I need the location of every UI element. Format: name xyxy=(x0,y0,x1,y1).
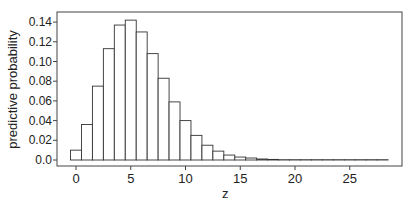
x-axis: 0510152025 xyxy=(72,166,357,186)
histogram-bar xyxy=(103,49,114,160)
x-tick-label: 20 xyxy=(288,171,302,186)
histogram-bar xyxy=(180,121,191,160)
x-tick-label: 15 xyxy=(233,171,247,186)
histogram-bar xyxy=(235,157,246,160)
histogram-bar xyxy=(224,155,235,160)
y-tick-label: 0.02 xyxy=(29,133,53,147)
y-axis-title-text: predictive probability xyxy=(5,30,20,149)
y-tick-label: 0.10 xyxy=(29,55,53,69)
histogram-bar xyxy=(169,102,180,160)
histogram-bar xyxy=(268,159,279,160)
y-axis: 0.00.020.040.060.080.100.120.14 xyxy=(29,15,57,167)
x-tick-label: 0 xyxy=(72,171,79,186)
x-tick-label: 5 xyxy=(127,171,134,186)
histogram-bar xyxy=(125,20,136,160)
histogram-bar xyxy=(191,135,202,160)
y-tick-label: 0.08 xyxy=(29,74,53,88)
histogram-bar xyxy=(246,158,257,160)
histogram-bar xyxy=(81,125,92,160)
histogram-bar xyxy=(213,151,224,160)
x-tick-label: 10 xyxy=(178,171,192,186)
histogram-chart: 0.00.020.040.060.080.100.120.14 05101520… xyxy=(0,0,416,211)
histogram-bar xyxy=(114,25,125,160)
histogram-bar xyxy=(136,32,147,160)
y-axis-title: predictive probability xyxy=(2,14,22,164)
bars xyxy=(71,20,389,160)
histogram-bar xyxy=(158,78,169,160)
histogram-bar xyxy=(147,54,158,160)
histogram-bar xyxy=(202,145,213,160)
y-tick-label: 0.14 xyxy=(29,15,53,29)
histogram-bar xyxy=(257,159,268,160)
y-tick-label: 0.12 xyxy=(29,35,53,49)
histogram-bar xyxy=(71,150,82,160)
y-tick-label: 0.06 xyxy=(29,94,53,108)
y-tick-label: 0.04 xyxy=(29,114,53,128)
y-tick-label: 0.0 xyxy=(35,153,52,167)
histogram-bar xyxy=(92,86,103,160)
x-axis-title: z xyxy=(222,186,229,201)
x-tick-label: 25 xyxy=(343,171,357,186)
